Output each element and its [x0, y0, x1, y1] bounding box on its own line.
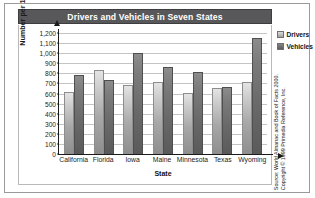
- bar-minnesota-drivers: [183, 93, 193, 155]
- y-tick-label-600: 600: [45, 90, 56, 97]
- x-tick-label-minnesota: Minnesota: [177, 156, 208, 168]
- chart-legend: Drivers Vehicles: [277, 31, 313, 55]
- y-tick-label-1000: 1,000: [39, 50, 56, 57]
- bar-florida-drivers: [94, 70, 104, 154]
- x-tick-label-iowa: Iowa: [118, 156, 147, 168]
- legend-label-vehicles: Vehicles: [287, 43, 313, 50]
- y-tick-label-500: 500: [45, 100, 56, 107]
- bar-group-texas: [208, 33, 238, 154]
- y-tick-label-1100: 1,100: [39, 40, 56, 47]
- x-tick-label-maine: Maine: [147, 156, 176, 168]
- bar-texas-vehicles: [222, 87, 232, 154]
- legend-swatch-drivers-icon: [277, 31, 284, 38]
- y-tick-label-800: 800: [45, 70, 56, 77]
- y-axis-title: Number per 1,000 people: [17, 0, 29, 53]
- x-tick-labels: CaliforniaFloridaIowaMaineMinnesotaTexas…: [59, 156, 267, 168]
- source-line-2: Copyright © 1999 Primedia Reference, Inc…: [279, 70, 286, 190]
- bar-group-california: [59, 33, 89, 154]
- x-tick-label-texas: Texas: [208, 156, 237, 168]
- y-tick-label-200: 200: [45, 130, 56, 137]
- bar-florida-vehicles: [104, 80, 114, 154]
- y-tick-label-300: 300: [45, 120, 56, 127]
- x-axis-title: State: [59, 170, 267, 177]
- legend-swatch-vehicles-icon: [277, 43, 284, 50]
- bar-maine-drivers: [153, 82, 163, 154]
- bar-iowa-vehicles: [133, 53, 143, 154]
- bar-wyoming-vehicles: [252, 38, 262, 154]
- bar-iowa-drivers: [123, 85, 133, 154]
- bar-group-minnesota: [178, 33, 208, 154]
- y-tick-label-0: 0: [52, 151, 56, 158]
- bar-group-maine: [148, 33, 178, 154]
- y-tick-label-900: 900: [45, 60, 56, 67]
- y-tick-label-1200: 1,200: [39, 30, 56, 37]
- bar-minnesota-vehicles: [193, 72, 203, 154]
- y-tick-label-400: 400: [45, 110, 56, 117]
- chart-figure: Drivers and Vehicles in Seven States Num…: [0, 0, 315, 198]
- y-axis-arrow-icon: [54, 20, 60, 26]
- y-tick-label-700: 700: [45, 80, 56, 87]
- source-line-1: Source: World Almanac and Book of Facts …: [273, 70, 280, 190]
- legend-item-drivers: Drivers: [277, 31, 313, 38]
- legend-label-drivers: Drivers: [287, 31, 310, 38]
- bar-wyoming-drivers: [242, 82, 252, 154]
- bar-group-wyoming: [237, 33, 267, 154]
- chart-title: Drivers and Vehicles in Seven States: [67, 12, 222, 22]
- y-tick-label-100: 100: [45, 140, 56, 147]
- bar-group-florida: [89, 33, 119, 154]
- bar-texas-drivers: [212, 88, 222, 154]
- x-tick-label-california: California: [59, 156, 88, 168]
- x-tick-label-florida: Florida: [88, 156, 117, 168]
- legend-item-vehicles: Vehicles: [277, 43, 313, 50]
- grid-region: 1,2001,1001,0009008007006005004003002001…: [59, 33, 267, 154]
- plot-area: Number per 1,000 people 1,2001,1001,0009…: [18, 25, 272, 185]
- bar-california-drivers: [64, 92, 74, 154]
- bars-layer: [59, 33, 267, 154]
- bar-california-vehicles: [74, 75, 84, 154]
- bar-group-iowa: [118, 33, 148, 154]
- source-note: Source: World Almanac and Book of Facts …: [273, 70, 286, 190]
- x-tick-label-wyoming: Wyoming: [238, 156, 267, 168]
- bar-maine-vehicles: [163, 67, 173, 154]
